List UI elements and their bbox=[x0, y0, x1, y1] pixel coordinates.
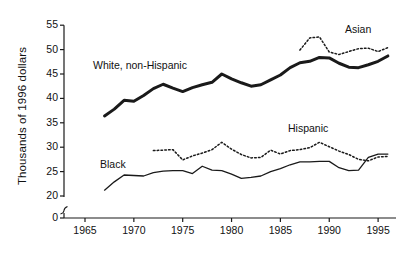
series-line-black bbox=[105, 154, 388, 190]
chart-figure: Thousands of 1996 dollars 0 20 25 30 35 … bbox=[0, 0, 419, 256]
series-line-hispanic bbox=[153, 142, 387, 161]
y-axis-break-icon bbox=[61, 207, 68, 215]
series-line-white-non-hispanic bbox=[105, 56, 388, 116]
plot-area bbox=[0, 0, 419, 256]
series-line-asian bbox=[300, 37, 388, 55]
